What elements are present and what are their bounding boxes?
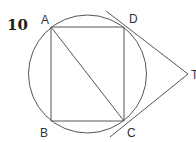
diagonal-AC	[51, 27, 124, 121]
label-B: B	[40, 126, 48, 140]
label-C: C	[127, 126, 136, 140]
tangent-line-DT	[106, 11, 188, 74]
label-T: T	[191, 68, 196, 82]
geometry-figure: A D B C T	[0, 0, 196, 142]
label-A: A	[41, 13, 49, 27]
tangent-line-CT	[110, 74, 188, 137]
label-D: D	[129, 12, 138, 26]
